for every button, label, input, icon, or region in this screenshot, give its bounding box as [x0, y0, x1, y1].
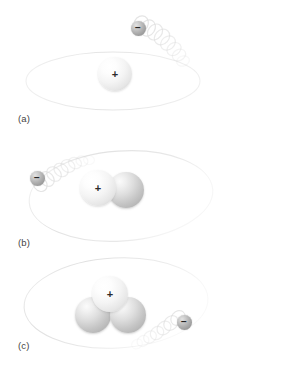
panel-label-c: (c) [18, 340, 30, 351]
electron-c: − [177, 315, 192, 330]
electron-charge-c: − [177, 315, 192, 330]
proton-charge-c: + [92, 276, 128, 312]
panel-c: + − (c) [0, 248, 291, 373]
proton-c: + [92, 276, 128, 312]
isotope-figure: + − (a) [0, 0, 291, 373]
